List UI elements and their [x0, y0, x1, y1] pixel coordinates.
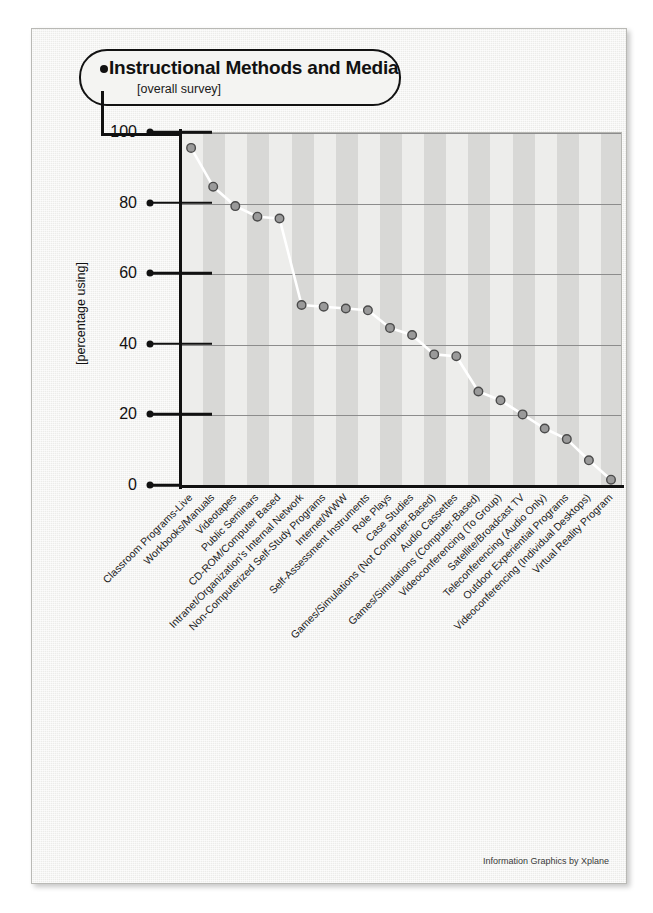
y-axis-tick-label: 80: [119, 194, 137, 212]
x-axis-category-label: Satellite/Broadcast TV: [444, 491, 526, 573]
data-point-marker[interactable]: [231, 202, 240, 211]
data-point-marker[interactable]: [342, 304, 351, 313]
data-point-marker[interactable]: [452, 352, 461, 361]
x-axis-category-label: Role Plays: [349, 491, 393, 535]
x-axis-category-label: Audio Cassettes: [397, 491, 460, 554]
data-point-marker[interactable]: [607, 475, 616, 484]
x-axis-category-label: Outdoor Experiential Programs: [460, 491, 570, 601]
data-point-marker[interactable]: [364, 306, 373, 315]
data-point-marker[interactable]: [408, 331, 417, 340]
data-point-marker[interactable]: [209, 182, 218, 191]
x-axis-category-label: Teleconferencing (Audio Only): [440, 491, 548, 599]
x-axis-category-label: Non-Computerized Self-Study Programs: [186, 491, 327, 632]
x-axis-category-label: Classroom Programs-Live: [100, 491, 194, 585]
callout-connector-segment-1: [101, 91, 104, 136]
data-point-marker[interactable]: [319, 302, 328, 311]
data-point-marker[interactable]: [540, 424, 549, 433]
data-point-marker[interactable]: [187, 144, 196, 153]
x-axis-category-label: Public Seminars: [199, 491, 261, 553]
y-axis-tick-label: 40: [119, 335, 137, 353]
x-axis-category-label: Intranet/Organization's Internal Network: [166, 491, 305, 630]
footer-credit: Information Graphics by Xplane: [483, 856, 609, 866]
y-axis-tick-label: 0: [128, 476, 137, 494]
data-series: [180, 132, 622, 486]
x-axis-category-label: Workbooks/Manuals: [141, 491, 217, 567]
data-point-marker[interactable]: [563, 435, 572, 444]
x-axis-category-label: Case Studies: [363, 491, 416, 544]
y-axis-tick-label: 60: [119, 264, 137, 282]
x-axis-category-label: Internet/WWW: [292, 491, 349, 548]
x-axis-category-label: Videoconferencing (Individual Desktops): [451, 491, 592, 632]
title-callout: Instructional Methods and Media [overall…: [79, 49, 401, 106]
callout-bullet-icon: [100, 65, 108, 73]
data-point-marker[interactable]: [585, 456, 594, 465]
data-point-marker[interactable]: [275, 214, 284, 223]
x-axis-category-label: Games/Simulations (Computer-Based): [346, 491, 482, 627]
data-point-marker[interactable]: [518, 410, 527, 419]
page-sheet: Instructional Methods and Media [overall…: [31, 28, 627, 884]
y-axis-tick-label: 100: [110, 123, 137, 141]
x-axis-category-label: Videotapes: [193, 491, 239, 537]
page-subtitle: [overall survey]: [137, 82, 221, 96]
x-axis-category-label: CD-ROM/Computer Based: [186, 491, 283, 588]
data-point-marker[interactable]: [430, 350, 439, 359]
data-point-marker[interactable]: [474, 387, 483, 396]
y-axis-title: [percentage using]: [74, 262, 88, 365]
x-axis-category-label: Virtual Reality Program: [530, 491, 615, 576]
data-point-marker[interactable]: [253, 212, 262, 221]
y-axis-tick-label: 20: [119, 405, 137, 423]
x-axis-category-label: Self-Assessment Instruments: [266, 491, 371, 596]
x-axis-category-label: Videoconferencing (To Group): [397, 491, 504, 598]
page-title: Instructional Methods and Media: [109, 57, 398, 79]
data-point-marker[interactable]: [297, 301, 306, 310]
data-point-marker[interactable]: [496, 396, 505, 405]
x-axis-category-label: Games/Simulations (Not Computer-Based): [288, 491, 438, 641]
data-point-marker[interactable]: [386, 324, 395, 333]
y-axis-tick-stub: [152, 484, 180, 487]
